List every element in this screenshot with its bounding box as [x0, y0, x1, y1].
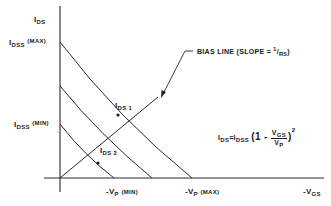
- vp-min-label: -VP (MIN): [106, 188, 138, 197]
- bias-line: [60, 97, 158, 178]
- idss-max-label: IDSS (MAX): [9, 38, 46, 48]
- idss-min-label: IDSS (MIN): [14, 120, 49, 130]
- ids1-label: IDS 1: [115, 102, 132, 111]
- transfer-equation: IDS=IDSS (1 - VGS VP )2: [218, 127, 295, 148]
- x-axis-label: -VGS: [303, 188, 321, 197]
- y-axis-label: IDS: [34, 16, 45, 25]
- idss-min-tick: [58, 132, 59, 133]
- vp-max-label: -VP (MAX): [185, 188, 219, 197]
- bias-line-label: BIAS LINE (SLOPE = 1/RS): [197, 47, 290, 57]
- arrow-head-icon: [161, 90, 166, 98]
- ids1-point: [116, 113, 119, 116]
- ids2-point: [96, 161, 99, 164]
- ids2-label: IDS 2: [100, 147, 117, 156]
- transfer-curve-plot: [0, 0, 331, 206]
- curve-idss-typical: [60, 86, 152, 178]
- bias-line-leader: [163, 51, 193, 94]
